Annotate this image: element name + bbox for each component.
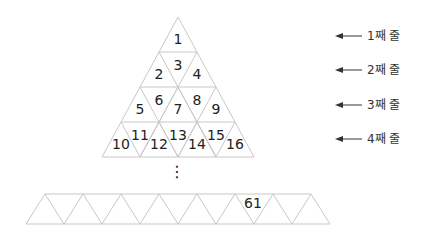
- pyramid-numbers: 12345678910111213141516: [112, 31, 244, 152]
- strip-diagonal: [140, 194, 159, 224]
- bottom-row-strip: [26, 194, 330, 224]
- pyramid-cell-11: 11: [131, 127, 149, 143]
- arrow-left-icon: [335, 102, 343, 108]
- pyramid-cell-16: 16: [226, 136, 244, 152]
- strip-diagonal: [311, 194, 330, 224]
- row-label-4: 4째 줄: [335, 132, 400, 146]
- pyramid-cell-2: 2: [155, 66, 164, 82]
- strip-diagonal: [292, 194, 311, 224]
- pyramid-cell-10: 10: [112, 136, 130, 152]
- strip-diagonal: [178, 194, 197, 224]
- pyramid-cell-15: 15: [207, 127, 225, 143]
- pyramid-cell-8: 8: [193, 92, 202, 108]
- strip-diagonal: [197, 194, 216, 224]
- strip-diagonal: [64, 194, 83, 224]
- strip-diagonal: [102, 194, 121, 224]
- pyramid-cell-9: 9: [212, 101, 221, 117]
- strip-diagonal: [26, 194, 45, 224]
- row-label-2: 2째 줄: [335, 63, 400, 77]
- pyramid-diagram: 12345678910111213141516 ⋮ 61 1째 줄2째 줄3째 …: [0, 0, 430, 238]
- row-label-text: 2째 줄: [367, 63, 400, 77]
- strip-diagonal: [45, 194, 64, 224]
- pyramid-cell-7: 7: [174, 101, 183, 117]
- strip-diagonal: [83, 194, 102, 224]
- pyramid-cell-3: 3: [174, 57, 183, 73]
- pyramid-cell-13: 13: [169, 127, 187, 143]
- arrow-left-icon: [335, 136, 343, 142]
- pyramid-cell-5: 5: [136, 101, 145, 117]
- pyramid-cell-14: 14: [188, 136, 206, 152]
- pyramid-cell-4: 4: [193, 66, 202, 82]
- row-label-text: 3째 줄: [367, 98, 400, 112]
- row-label-text: 1째 줄: [367, 29, 400, 43]
- arrow-left-icon: [335, 67, 343, 73]
- row-label-3: 3째 줄: [335, 98, 400, 112]
- strip-diagonal: [121, 194, 140, 224]
- strip-diagonal: [216, 194, 235, 224]
- strip-diagonal: [273, 194, 292, 224]
- row-labels: 1째 줄2째 줄3째 줄4째 줄: [335, 29, 400, 146]
- pyramid-cell-6: 6: [155, 92, 164, 108]
- bottom-row-number: 61: [244, 195, 262, 211]
- continuation-dots: ⋮: [169, 162, 185, 181]
- pyramid-cell-1: 1: [174, 31, 183, 47]
- row-label-text: 4째 줄: [367, 132, 400, 146]
- arrow-left-icon: [335, 33, 343, 39]
- strip-diagonal: [159, 194, 178, 224]
- row-label-1: 1째 줄: [335, 29, 400, 43]
- pyramid-cell-12: 12: [150, 136, 168, 152]
